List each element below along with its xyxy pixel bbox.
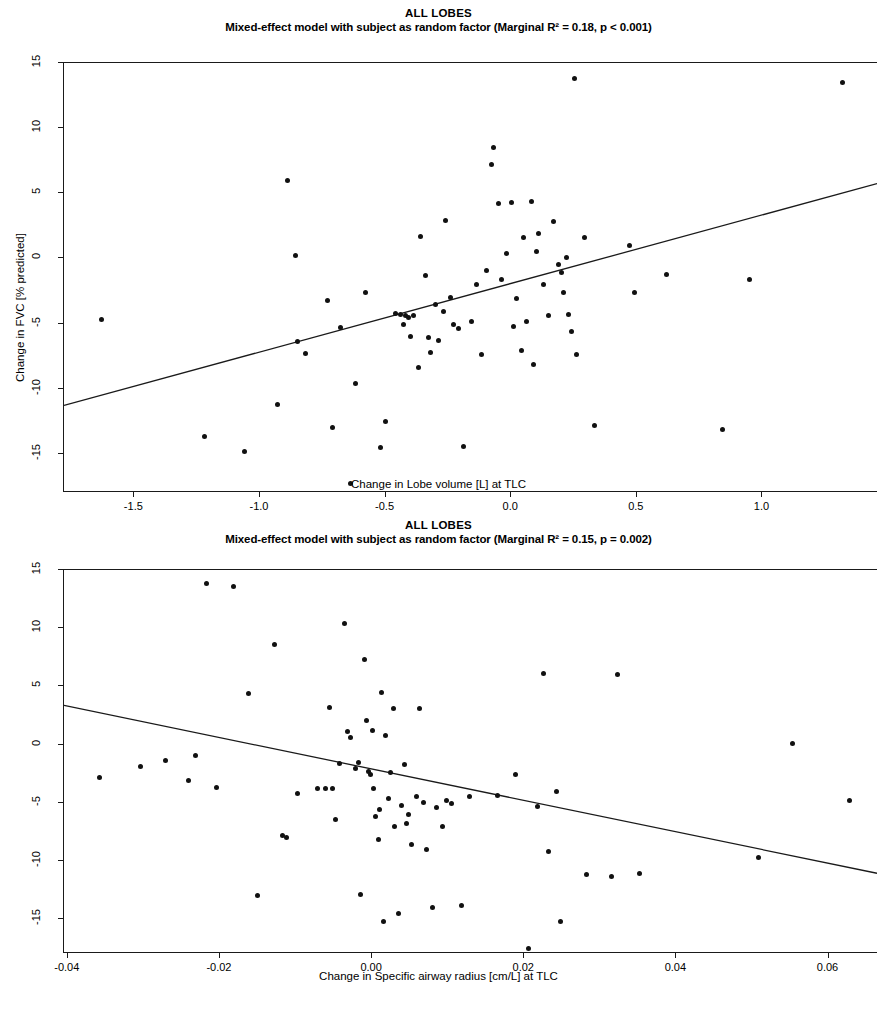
data-point xyxy=(97,775,102,780)
data-point xyxy=(411,313,416,318)
y-tick-label: -5 xyxy=(30,305,42,339)
y-tick-mark xyxy=(58,685,63,686)
data-point xyxy=(406,812,411,817)
x-tick-mark xyxy=(219,953,220,958)
y-tick-mark xyxy=(58,860,63,861)
y-tick-mark xyxy=(58,192,63,193)
data-point xyxy=(436,338,441,343)
y-tick-label: 15 xyxy=(30,44,42,78)
x-tick-mark xyxy=(133,492,134,497)
data-point xyxy=(363,290,368,295)
data-point xyxy=(396,911,401,916)
chart2-subtitle: Mixed-effect model with subject as rando… xyxy=(0,532,877,547)
data-point xyxy=(275,402,280,407)
x-tick-mark xyxy=(259,492,260,497)
data-point xyxy=(433,302,438,307)
chart2-x-axis-title: Change in Specific airway radius [cm/L] … xyxy=(0,970,877,982)
data-point xyxy=(399,803,404,808)
y-tick-mark xyxy=(58,127,63,128)
x-tick-mark xyxy=(761,492,762,497)
y-tick-mark xyxy=(58,569,63,570)
data-point xyxy=(138,764,143,769)
chart2-plot-area xyxy=(63,569,877,953)
data-point xyxy=(569,329,574,334)
x-tick-mark xyxy=(675,953,676,958)
y-tick-mark xyxy=(58,918,63,919)
data-point xyxy=(378,445,383,450)
x-tick-mark xyxy=(636,492,637,497)
data-point xyxy=(337,761,342,766)
data-point xyxy=(214,785,219,790)
chart2-title: ALL LOBES xyxy=(0,518,877,532)
y-tick-mark xyxy=(58,257,63,258)
scatter-figure-lobe-volume: ALL LOBES Mixed-effect model with subjec… xyxy=(0,0,877,505)
data-point xyxy=(440,824,445,829)
data-point xyxy=(489,162,494,167)
data-point xyxy=(295,791,300,796)
y-tick-label: 10 xyxy=(30,109,42,143)
data-point xyxy=(790,741,795,746)
data-point xyxy=(541,671,546,676)
data-point xyxy=(370,728,375,733)
data-point xyxy=(499,277,504,282)
y-tick-label: -5 xyxy=(30,784,42,818)
data-point xyxy=(356,760,361,765)
data-point xyxy=(404,821,409,826)
data-point xyxy=(333,817,338,822)
data-point xyxy=(592,423,597,428)
x-tick-mark xyxy=(385,492,386,497)
data-point xyxy=(364,718,369,723)
chart2-regression-line xyxy=(64,570,877,952)
y-tick-label: 15 xyxy=(30,551,42,585)
data-point xyxy=(720,427,725,432)
data-point xyxy=(615,672,620,677)
y-tick-label: -10 xyxy=(30,842,42,876)
data-point xyxy=(325,298,330,303)
y-tick-mark xyxy=(58,802,63,803)
data-point xyxy=(627,243,632,248)
data-point xyxy=(186,778,191,783)
data-point xyxy=(526,946,531,951)
y-tick-mark xyxy=(58,627,63,628)
chart1-y-axis-title: Change in FVC [% predicted] xyxy=(14,233,26,382)
data-point xyxy=(582,235,587,240)
data-point xyxy=(391,706,396,711)
data-point xyxy=(511,324,516,329)
y-tick-mark xyxy=(58,744,63,745)
y-tick-mark xyxy=(58,453,63,454)
data-point xyxy=(461,444,466,449)
data-point xyxy=(381,919,386,924)
data-point xyxy=(529,199,534,204)
data-point xyxy=(756,855,761,860)
data-point xyxy=(513,772,518,777)
data-point xyxy=(504,251,509,256)
y-tick-mark xyxy=(58,388,63,389)
data-point xyxy=(609,874,614,879)
data-point xyxy=(479,352,484,357)
x-tick-mark xyxy=(510,492,511,497)
data-point xyxy=(338,325,343,330)
scatter-figure-airway-radius: ALL LOBES Mixed-effect model with subjec… xyxy=(0,505,877,1014)
data-point xyxy=(524,319,529,324)
data-point xyxy=(474,282,479,287)
data-point xyxy=(406,315,411,320)
data-point xyxy=(353,381,358,386)
y-tick-mark xyxy=(58,62,63,63)
data-point xyxy=(193,753,198,758)
y-tick-label: -15 xyxy=(30,435,42,469)
data-point xyxy=(572,76,577,81)
data-point xyxy=(632,290,637,295)
chart1-title-block: ALL LOBES Mixed-effect model with subjec… xyxy=(0,6,877,35)
data-point xyxy=(379,690,384,695)
y-tick-label: 10 xyxy=(30,609,42,643)
y-tick-label: -10 xyxy=(30,370,42,404)
data-point xyxy=(327,705,332,710)
y-tick-label: 5 xyxy=(30,667,42,701)
data-point xyxy=(509,200,514,205)
chart2-title-block: ALL LOBES Mixed-effect model with subjec… xyxy=(0,518,877,547)
x-tick-mark xyxy=(67,953,68,958)
data-point xyxy=(386,796,391,801)
data-point xyxy=(285,178,290,183)
data-point xyxy=(303,351,308,356)
x-tick-mark xyxy=(828,953,829,958)
